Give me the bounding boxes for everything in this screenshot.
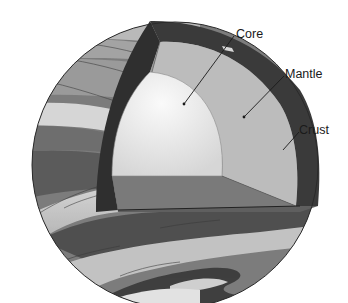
crust-label: Crust <box>299 124 329 137</box>
mantle-label: Mantle <box>285 68 323 81</box>
core-leader-dot <box>183 103 186 106</box>
earth-cutaway-diagram <box>0 0 348 303</box>
core-label: Core <box>236 28 263 41</box>
mantle-leader-dot <box>243 116 246 119</box>
